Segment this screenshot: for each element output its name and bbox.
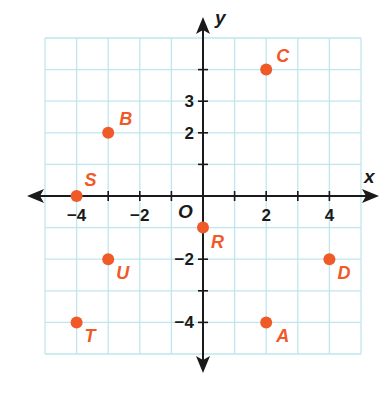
point-marker <box>323 253 335 265</box>
point-A: A <box>260 316 289 346</box>
x-axis-label: x <box>363 166 376 187</box>
point-C: C <box>260 46 290 76</box>
point-B: B <box>102 109 132 139</box>
point-marker <box>197 222 209 234</box>
point-marker <box>260 64 272 76</box>
point-label: D <box>337 263 350 283</box>
point-R: R <box>197 222 224 252</box>
point-label: B <box>119 109 132 129</box>
point-marker <box>102 127 114 139</box>
x-tick-label: −2 <box>130 206 149 225</box>
y-tick-label: 2 <box>185 124 194 143</box>
point-marker <box>102 253 114 265</box>
point-U: U <box>102 253 130 283</box>
y-tick-label: 3 <box>185 92 194 111</box>
x-tick-label: 4 <box>325 206 335 225</box>
point-label: A <box>275 326 289 346</box>
point-T: T <box>71 316 98 346</box>
point-label: U <box>116 263 130 283</box>
point-marker <box>260 316 272 328</box>
origin-label: O <box>178 201 193 222</box>
point-label: S <box>85 170 97 190</box>
point-S: S <box>71 170 97 202</box>
y-tick-label: −2 <box>175 250 194 269</box>
point-D: D <box>323 253 350 283</box>
coordinate-plane: −4−22432−2−4 x y O ABCDRSTU <box>0 0 392 393</box>
x-tick-label: −4 <box>67 206 87 225</box>
point-marker <box>71 190 83 202</box>
point-marker <box>71 316 83 328</box>
y-axis-label: y <box>214 7 227 28</box>
point-label: T <box>85 326 98 346</box>
y-tick-label: −4 <box>175 313 195 332</box>
point-label: R <box>211 232 224 252</box>
point-label: C <box>276 46 290 66</box>
x-tick-label: 2 <box>261 206 270 225</box>
